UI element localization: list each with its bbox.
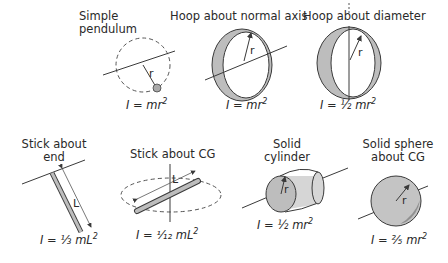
stick-cg-title: Stick about CG — [130, 148, 215, 161]
hoop-diameter-formula: I = ½ mr2 — [320, 97, 376, 112]
hoop-normal-title: Hoop about normal axis — [170, 10, 308, 23]
solid-cylinder-drawing: r — [242, 168, 348, 212]
pendulum-title: Simple pendulum — [79, 10, 137, 36]
stick-end-title: Stick about end — [18, 138, 90, 164]
stick-end-drawing: L — [22, 160, 91, 232]
formula-exponent: 2 — [422, 232, 427, 241]
hoop-normal-formula: I = mr2 — [226, 97, 267, 112]
formula-exponent: 2 — [262, 97, 267, 106]
solid-sphere-drawing: r — [358, 176, 428, 226]
svg-text:r: r — [402, 194, 407, 207]
pendulum-drawing: r — [103, 38, 175, 92]
hoop-normal-title-line1: Hoop about normal axis — [170, 10, 308, 23]
hoop-normal-drawing: r — [205, 29, 287, 101]
stick-end-title-line2: end — [18, 151, 90, 164]
formula-exponent: 2 — [162, 97, 167, 106]
formula-text: I = mr — [126, 98, 162, 112]
svg-text:L: L — [73, 197, 80, 210]
svg-text:r: r — [250, 44, 255, 57]
pendulum-title-line2: pendulum — [79, 23, 137, 36]
pendulum-formula: I = mr2 — [126, 97, 167, 112]
stick-cg-formula: I = ¹⁄₁₂ mL2 — [136, 227, 198, 242]
svg-text:L: L — [172, 173, 179, 186]
solid-cylinder-title-line2: cylinder — [262, 151, 312, 164]
stick-end-formula: I = ⅓ mL2 — [40, 232, 98, 247]
svg-text:r: r — [358, 46, 363, 59]
solid-sphere-formula: I = ⅖ mr2 — [371, 232, 427, 247]
solid-sphere-title-line2: about CG — [360, 151, 436, 164]
stick-cg-title-line1: Stick about CG — [130, 148, 215, 161]
svg-text:r: r — [284, 183, 289, 196]
solid-sphere-title: Solid sphere about CG — [360, 138, 436, 164]
formula-text: I = ⅖ mr — [371, 233, 422, 247]
formula-text: I = ½ mr — [257, 218, 308, 232]
stick-cg-drawing: L — [121, 164, 221, 222]
formula-text: I = ¹⁄₁₂ mL — [136, 228, 193, 242]
hoop-diameter-title-line1: Hoop about diameter — [303, 10, 426, 23]
formula-exponent: 2 — [93, 232, 98, 241]
formula-text: I = ⅓ mL — [40, 233, 93, 247]
diagram-canvas: r r r L L — [0, 0, 448, 263]
formula-text: I = ½ mr — [320, 98, 371, 112]
formula-text: I = mr — [226, 98, 262, 112]
formula-exponent: 2 — [371, 97, 376, 106]
hoop-diameter-title: Hoop about diameter — [303, 10, 426, 23]
formula-exponent: 2 — [308, 217, 313, 226]
solid-cylinder-title: Solid cylinder — [262, 138, 312, 164]
formula-exponent: 2 — [193, 227, 198, 236]
svg-text:r: r — [149, 67, 154, 80]
solid-cylinder-formula: I = ½ mr2 — [257, 217, 313, 232]
